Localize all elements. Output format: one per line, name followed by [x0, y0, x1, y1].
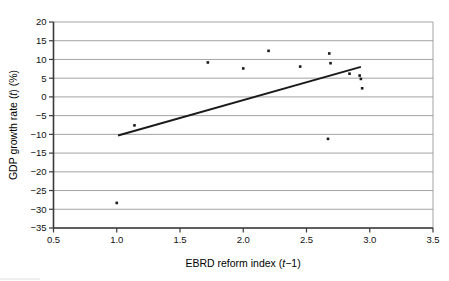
y-axis-title: GDP growth rate (t) (%): [7, 70, 19, 180]
data-point: [360, 78, 363, 81]
data-point: [327, 138, 330, 141]
y-tick-label: −30: [30, 204, 46, 215]
data-point: [207, 61, 210, 64]
y-tick-label: −35: [30, 222, 46, 233]
data-point: [242, 67, 245, 70]
y-tick-label: 10: [36, 54, 47, 65]
data-point: [361, 87, 364, 90]
data-point: [299, 65, 302, 68]
y-tick-label: −20: [30, 166, 46, 177]
x-tick-label: 2.5: [300, 234, 313, 245]
data-points: [115, 50, 363, 205]
regression-line: [118, 67, 361, 136]
x-tick-label: 2.0: [237, 234, 250, 245]
y-tick-label: 15: [36, 35, 47, 46]
plot-frame: [54, 22, 434, 228]
data-point: [329, 62, 332, 65]
x-tick-label: 0.5: [47, 234, 60, 245]
y-axis-ticks: 20151050−5−10−15−20−25−30−35: [30, 16, 53, 233]
data-point: [133, 124, 136, 127]
y-tick-label: 5: [41, 73, 46, 84]
x-tick-label: 3.0: [363, 234, 376, 245]
chart-figure: 0.51.01.52.02.53.03.5 20151050−5−10−15−2…: [0, 0, 449, 281]
x-axis-ticks: 0.51.01.52.02.53.03.5: [47, 228, 440, 245]
scatter-plot: 0.51.01.52.02.53.03.5 20151050−5−10−15−2…: [0, 0, 449, 281]
data-point: [267, 50, 270, 53]
trend-line: [118, 67, 361, 136]
data-point: [115, 202, 118, 205]
data-point: [358, 74, 361, 77]
y-tick-label: −5: [36, 110, 47, 121]
x-tick-label: 1.0: [110, 234, 123, 245]
x-tick-label: 3.5: [426, 234, 439, 245]
x-tick-label: 1.5: [173, 234, 186, 245]
data-point: [348, 72, 351, 75]
y-tick-label: 0: [41, 91, 46, 102]
x-axis-title: EBRD reform index (t−1): [185, 257, 300, 269]
y-tick-label: −10: [30, 129, 46, 140]
data-point: [328, 52, 331, 55]
y-tick-label: −15: [30, 147, 46, 158]
y-tick-label: −25: [30, 185, 46, 196]
y-tick-label: 20: [36, 16, 47, 27]
